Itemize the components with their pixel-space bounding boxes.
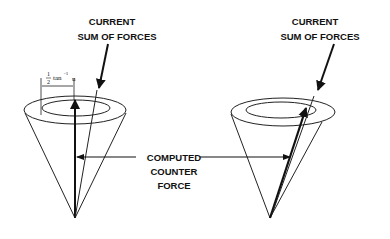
- counter-force-label-line1: COMPUTED: [147, 152, 202, 163]
- left-current-sum-line: [75, 90, 97, 218]
- right-current-label-line2: SUM OF FORCES: [280, 31, 359, 42]
- fraction-numerator: 1: [47, 71, 50, 77]
- right-current-sum-line: [272, 96, 314, 214]
- counter-force-label-line2: COUNTER: [151, 166, 198, 177]
- right-friction-cone: CURRENT SUM OF FORCES: [231, 16, 360, 218]
- tan-argument: u: [72, 75, 76, 83]
- right-current-sum-pointer-arrow: [318, 44, 334, 90]
- counter-force-label-line3: FORCE: [157, 180, 190, 191]
- right-cone-side-left: [231, 114, 270, 218]
- fraction-denominator: 2: [47, 79, 50, 85]
- half-arctan-dimension: 1 2 tan -1 u: [41, 71, 76, 115]
- left-current-sum-pointer-arrow: [99, 44, 108, 88]
- left-friction-cone: 1 2 tan -1 u CURRENT SUM OF FORCES: [24, 16, 157, 218]
- tan-function: tan: [53, 74, 62, 82]
- left-current-label-line2: SUM OF FORCES: [77, 31, 156, 42]
- tan-exponent: -1: [64, 71, 69, 76]
- friction-cone-diagram: 1 2 tan -1 u CURRENT SUM OF FORCES CURRE…: [0, 0, 390, 239]
- left-cone-side-right: [75, 113, 126, 218]
- right-current-label-line1: CURRENT: [292, 16, 339, 27]
- right-counter-vector-arrow: [270, 108, 306, 218]
- left-cone-side-left: [25, 113, 75, 218]
- left-current-label-line1: CURRENT: [89, 16, 136, 27]
